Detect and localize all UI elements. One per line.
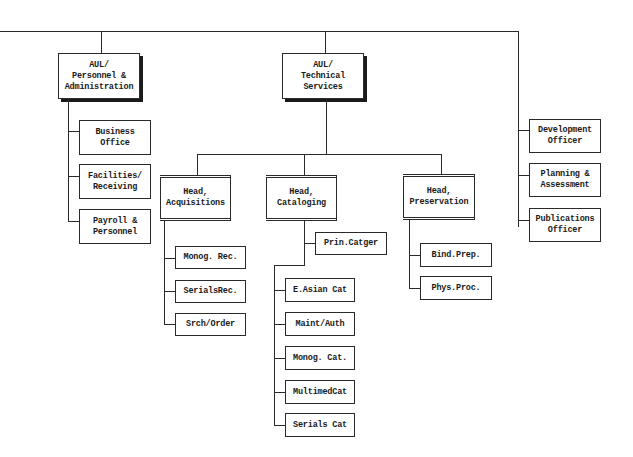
node-planning-assessment: Planning & Assessment [529,163,601,197]
node-prin-catger: Prin.Catger [315,232,387,255]
node-facilities-receiving: Facilities/ Receiving [79,164,151,199]
connector [409,288,420,289]
node-monog-cat: Monog. Cat. [285,346,355,370]
connector [518,130,529,131]
connector [197,154,198,175]
node-serials-rec: SerialsRec. [175,280,246,303]
connector [164,291,175,292]
connector [197,154,442,155]
connector [68,131,79,132]
node-maint-auth: Maint/Auth [285,312,355,336]
connector [164,324,175,325]
node-head-acquisitions: Head, Acquisitions [160,175,231,221]
node-development-officer: Development Officer [529,119,601,153]
node-e-asian-cat: E.Asian Cat [285,278,355,302]
node-monog-rec: Monog. Rec. [175,246,246,269]
node-head-cataloging: Head, Cataloging [266,175,337,221]
node-publications-officer: Publications Officer [529,208,601,242]
connector [274,265,305,266]
connector [304,154,305,175]
connector [274,358,285,359]
connector [68,221,79,222]
connector [518,175,529,176]
connector [325,31,326,53]
node-multimed-cat: MultimedCat [285,380,355,404]
connector [274,290,285,291]
connector [326,99,327,154]
connector [164,221,165,324]
node-head-preservation: Head, Preservation [403,174,475,220]
connector [274,392,285,393]
node-aul-personnel-administration: AUL/ Personnel & Administration [58,53,140,99]
connector [409,220,410,288]
connector [441,154,442,174]
connector [409,255,420,256]
connector [68,99,69,221]
node-business-office: Business Office [79,120,151,155]
connector [68,176,79,177]
connector [518,31,519,227]
node-aul-technical-services: AUL/ Technical Services [282,53,364,99]
connector [518,220,529,221]
node-phys-proc: Phys.Proc. [420,276,492,300]
connector [274,324,285,325]
top-connector [0,31,519,32]
connector [164,258,175,259]
node-bind-prep: Bind.Prep. [420,243,492,267]
node-serials-cat: Serials Cat [285,413,355,437]
connector [101,31,102,53]
connector [304,243,315,244]
node-payroll-personnel: Payroll & Personnel [79,209,151,244]
connector [274,425,285,426]
connector [274,265,275,425]
node-srch-order: Srch/Order [175,313,246,336]
